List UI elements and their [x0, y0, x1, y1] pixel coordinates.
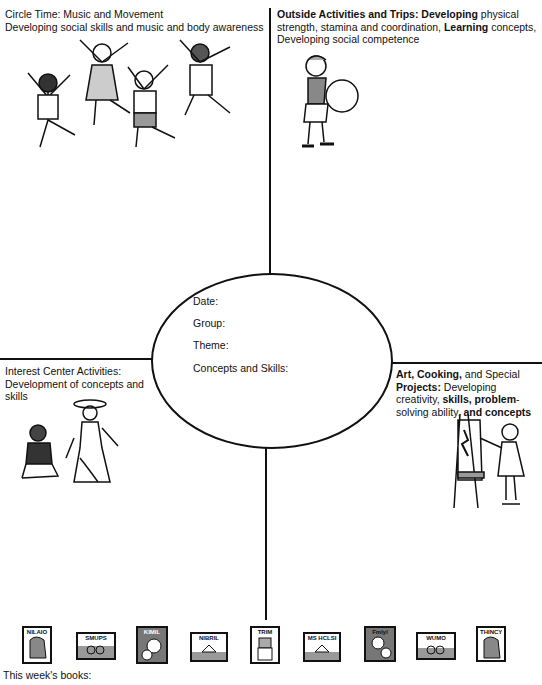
- theme-field-label: Theme:: [193, 339, 229, 351]
- interest-center-caption: Interest Center Activities: Development …: [5, 365, 145, 403]
- outside-bold-1: Developing: [421, 8, 478, 20]
- outside-title: Outside Activities and Trips:: [277, 8, 418, 20]
- art-bold-1: Art, Cooking,: [396, 368, 462, 380]
- book-cover-family-icon: [366, 628, 394, 660]
- books-row: NILAIO SMUPS KIMIL NIBRIL TRIM MS HCLSI …: [0, 626, 542, 668]
- book-cover-house-icon: [192, 634, 226, 660]
- book-cover-6[interactable]: MS HCLSI: [303, 632, 341, 662]
- art-bold-3: skills, problem: [442, 393, 516, 405]
- book-cover-elephant-icon: [478, 628, 504, 660]
- divider-right-horizontal: [390, 362, 542, 364]
- divider-top-vertical: [269, 8, 271, 275]
- center-oval: Date: Group: Theme: Concepts and Skills:: [151, 273, 393, 449]
- book-cover-5[interactable]: TRIM: [250, 626, 280, 664]
- book-cover-1[interactable]: NILAIO: [22, 626, 52, 664]
- divider-bottom-vertical: [265, 447, 267, 620]
- book-cover-9[interactable]: THINCY: [476, 626, 506, 662]
- art-text-1: and Special: [462, 368, 520, 380]
- divider-left-horizontal: [0, 358, 152, 360]
- book-cover-bicycle-icon: [78, 634, 114, 658]
- date-field-label: Date:: [193, 295, 218, 307]
- child-painting-easel-illustration: [450, 410, 535, 510]
- book-cover-elephant-icon: [24, 628, 50, 662]
- book-cover-3[interactable]: KIMIL: [136, 626, 168, 664]
- concepts-skills-field-label: Concepts and Skills:: [193, 362, 288, 374]
- circle-time-title: Circle Time: Music and Movement: [5, 8, 267, 21]
- outside-activities-caption: Outside Activities and Trips: Developing…: [277, 8, 539, 46]
- this-weeks-books-label: This week's books:: [3, 669, 91, 681]
- art-bold-2: Projects:: [396, 381, 441, 393]
- book-cover-8[interactable]: WUMO: [416, 632, 456, 660]
- circle-time-caption: Circle Time: Music and Movement Developi…: [5, 8, 267, 33]
- book-cover-house-icon: [305, 634, 339, 660]
- book-cover-2[interactable]: SMUPS: [76, 632, 116, 660]
- group-field-label: Group:: [193, 317, 225, 329]
- child-with-ball-illustration: [300, 52, 370, 152]
- circle-time-description: Developing social skills and music and b…: [5, 21, 267, 34]
- outside-bold-2: Learning: [444, 21, 488, 33]
- dress-up-children-illustration: [18, 398, 128, 488]
- book-cover-4[interactable]: NIBRIL: [190, 632, 228, 662]
- book-cover-7[interactable]: Fmlyl: [364, 626, 396, 662]
- interest-center-title: Interest Center Activities:: [5, 365, 121, 377]
- book-cover-blocks-icon: [252, 628, 278, 662]
- dancing-children-illustration: [20, 35, 260, 150]
- book-cover-bicycle-icon: [418, 634, 454, 658]
- book-cover-faces-icon: [138, 628, 166, 662]
